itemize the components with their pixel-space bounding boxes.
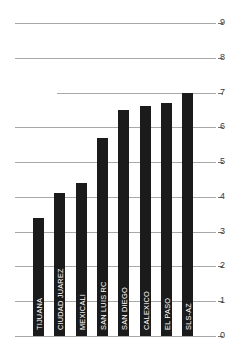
y-axis-tick-label: 1 bbox=[220, 296, 240, 305]
bar: CIUDAD JUAREZ bbox=[54, 193, 65, 336]
y-axis-tick-label: 6 bbox=[220, 122, 240, 131]
bar: MEXICALI bbox=[76, 183, 87, 336]
bar: EL PASO bbox=[161, 103, 172, 336]
gridline-0 bbox=[15, 336, 216, 337]
bar-label: SLS-AZ bbox=[183, 303, 192, 330]
y-axis-tick-label: 7 bbox=[220, 88, 240, 97]
y-axis-tick-label: 0 bbox=[220, 331, 240, 340]
y-axis-tick-label: 4 bbox=[220, 192, 240, 201]
bar: SAN DIEGO bbox=[118, 110, 129, 336]
bar: SAN LUIS RC bbox=[97, 138, 108, 336]
y-axis-tick-label: 8 bbox=[220, 53, 240, 62]
y-axis-tick-label: 2 bbox=[220, 261, 240, 270]
bar-label: SAN LUIS RC bbox=[98, 281, 107, 330]
y-axis-tick-label: 9 bbox=[220, 18, 240, 27]
bar: SLS-AZ bbox=[182, 93, 193, 336]
gridline-9 bbox=[15, 23, 216, 24]
y-axis-tick-label: 3 bbox=[220, 227, 240, 236]
gridline-8 bbox=[15, 58, 216, 59]
bar-label: CALEXICO bbox=[141, 291, 150, 330]
bar-label: CIUDAD JUAREZ bbox=[55, 268, 64, 330]
bar-label: SAN DIEGO bbox=[119, 287, 128, 330]
bar-label: EL PASO bbox=[162, 298, 171, 330]
y-axis-tick-label: 5 bbox=[220, 157, 240, 166]
bar: TIJUANA bbox=[33, 218, 44, 336]
bar: CALEXICO bbox=[140, 106, 151, 336]
bar-label: TIJUANA bbox=[34, 298, 43, 330]
bar-chart: 0123456789 TIJUANACIUDAD JUAREZMEXICALIS… bbox=[0, 0, 242, 354]
bar-label: MEXICALI bbox=[77, 294, 86, 330]
